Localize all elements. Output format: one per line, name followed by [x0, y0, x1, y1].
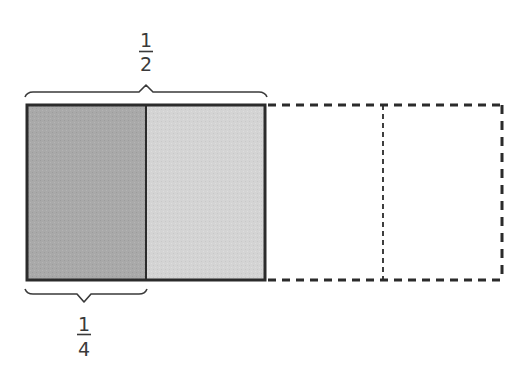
bottom-fraction-denominator: 4 [78, 338, 90, 360]
unshaded-half-dashed [268, 105, 502, 280]
fraction-bar-diagram: 1 2 1 4 [0, 0, 527, 372]
top-brace [25, 85, 267, 97]
top-fraction-denominator: 2 [140, 53, 152, 75]
segment-2-shaded-light [146, 105, 265, 280]
bottom-brace [25, 289, 147, 302]
segment-1-shaded-dark [27, 105, 146, 280]
bottom-fraction-label: 1 4 [77, 313, 91, 360]
top-fraction-numerator: 1 [140, 29, 152, 51]
bottom-fraction-numerator: 1 [78, 313, 90, 335]
top-fraction-label: 1 2 [139, 29, 153, 75]
